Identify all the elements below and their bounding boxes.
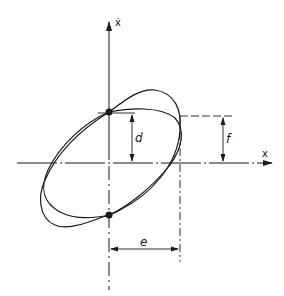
vertical-axis-label: ẋ (115, 17, 121, 28)
upper-intersection-dot (106, 109, 113, 116)
horizontal-axis-label: x (262, 148, 268, 159)
inner-ellipse-loop (44, 109, 182, 218)
d-label: d (135, 131, 143, 145)
phase-diagram: ẋ x d f e (0, 0, 284, 296)
e-label: e (140, 235, 147, 249)
lower-intersection-dot (106, 212, 113, 219)
f-label: f (226, 132, 232, 146)
diagram-canvas: ẋ x d f e (0, 0, 284, 296)
